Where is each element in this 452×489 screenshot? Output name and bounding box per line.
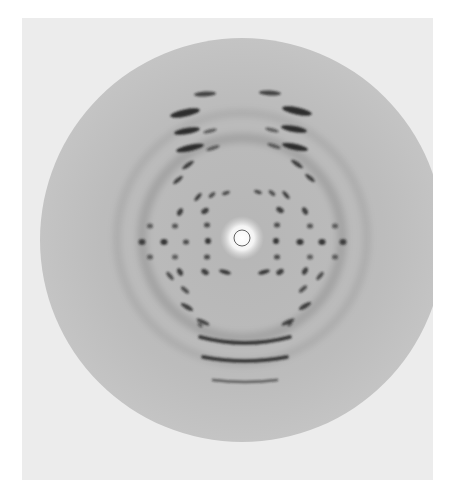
diffraction-spot bbox=[274, 223, 280, 228]
diffraction-spot bbox=[204, 223, 210, 228]
diffraction-spot bbox=[172, 255, 178, 260]
diffraction-spot bbox=[307, 255, 313, 260]
diffraction-spot bbox=[332, 224, 338, 229]
diffraction-spot bbox=[205, 238, 211, 244]
diffraction-spot bbox=[204, 255, 210, 260]
diffraction-spot bbox=[161, 239, 168, 245]
diffraction-spot bbox=[340, 239, 347, 245]
diffraction-spot bbox=[307, 224, 313, 229]
diffraction-spot bbox=[147, 224, 153, 229]
diffraction-spot bbox=[273, 238, 279, 244]
diffraction-spot bbox=[297, 239, 304, 245]
diffraction-photograph bbox=[0, 0, 452, 489]
diffraction-spot bbox=[139, 239, 146, 245]
diffraction-spot bbox=[147, 255, 153, 260]
diffraction-spot bbox=[332, 255, 338, 260]
diffraction-spot bbox=[319, 239, 326, 245]
diffraction-spot bbox=[183, 240, 189, 245]
diffraction-spot bbox=[274, 255, 280, 260]
diffraction-spot bbox=[172, 224, 178, 229]
center-beam-glow bbox=[220, 216, 264, 260]
